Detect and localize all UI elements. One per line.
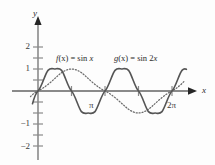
curve-label-g-var: x xyxy=(154,53,158,63)
trig-graph-figure: y x 2 1 −1 −2 π 2π f(x) = sin x g(x) = s… xyxy=(0,0,215,165)
curve-label-f-var: x xyxy=(89,53,93,63)
x-axis-arrow-icon xyxy=(188,87,197,95)
x-tick-label-2pi: 2π xyxy=(167,100,176,110)
y-tick-label-minus-1: −1 xyxy=(14,118,30,128)
curve-label-g-arg: (x) = sin 2 xyxy=(118,53,153,63)
plot-canvas xyxy=(0,0,215,165)
x-tick-label-pi: π xyxy=(89,100,94,110)
y-tick-label-2: 2 xyxy=(18,41,30,51)
curve-label-f-arg: (x) = sin xyxy=(58,53,89,63)
curve-label-g: g(x) = sin 2x xyxy=(114,53,157,63)
x-axis-label: x xyxy=(202,85,206,95)
curve-label-f: f(x) = sin x xyxy=(56,53,93,63)
y-tick-label-minus-2: −2 xyxy=(14,141,30,151)
y-axis-label: y xyxy=(33,8,37,18)
y-tick-label-1: 1 xyxy=(18,63,30,73)
